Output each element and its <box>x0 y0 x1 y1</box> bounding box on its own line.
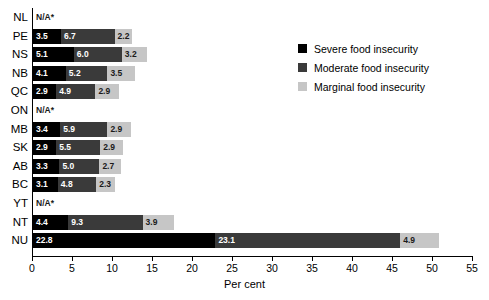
x-axis-title: Per cent <box>0 278 489 290</box>
bar-segment-moderate[interactable]: 6.0 <box>74 47 122 62</box>
legend-label: Moderate food insecurity <box>314 62 429 74</box>
legend-item-marginal[interactable]: Marginal food insecurity <box>298 78 429 95</box>
bar-segment-severe[interactable]: 2.9 <box>33 140 56 155</box>
x-axis-tick <box>32 256 33 261</box>
stacked-bar[interactable]: 2.94.92.9 <box>33 84 119 99</box>
bar-segment-severe[interactable]: 3.5 <box>33 29 61 44</box>
bar-value-label: 9.3 <box>71 215 83 230</box>
x-axis-tick <box>312 256 313 261</box>
row-label-nt: NT <box>0 215 28 230</box>
bar-segment-marginal[interactable]: 4.9 <box>400 233 439 248</box>
row-label-nb: NB <box>0 66 28 81</box>
bar-value-label: 6.0 <box>77 47 89 62</box>
row-label-qc: QC <box>0 84 28 99</box>
bar-segment-marginal[interactable]: 3.9 <box>143 215 174 230</box>
row-label-nu: NU <box>0 233 28 248</box>
bar-segment-marginal[interactable]: 2.9 <box>95 84 118 99</box>
row-label-ab: AB <box>0 159 28 174</box>
stacked-bar[interactable]: 4.49.33.9 <box>33 215 174 230</box>
bar-value-label: 5.9 <box>63 122 75 137</box>
bar-value-label: 2.9 <box>103 140 115 155</box>
bar-value-label: 4.4 <box>36 215 48 230</box>
row-label-mb: MB <box>0 122 28 137</box>
legend-swatch-icon <box>298 44 307 53</box>
bar-segment-severe[interactable]: 5.1 <box>33 47 74 62</box>
stacked-bar[interactable]: 5.16.03.2 <box>33 47 147 62</box>
legend-label: Marginal food insecurity <box>314 81 425 93</box>
stacked-bar[interactable]: 2.95.52.9 <box>33 140 123 155</box>
x-axis-tick-label: 10 <box>106 262 118 274</box>
stacked-bar[interactable]: 4.15.23.5 <box>33 66 135 81</box>
x-axis-line <box>32 256 473 257</box>
bar-segment-marginal[interactable]: 3.2 <box>122 47 148 62</box>
bar-value-label: 2.2 <box>118 29 130 44</box>
bar-segment-severe[interactable]: 22.8 <box>33 233 215 248</box>
bar-value-label: 3.3 <box>36 159 48 174</box>
bar-segment-marginal[interactable]: 2.9 <box>100 140 123 155</box>
stacked-bar[interactable]: 22.823.14.9 <box>33 233 439 248</box>
bar-value-label: 2.9 <box>36 84 48 99</box>
bar-value-label: 3.1 <box>36 177 48 192</box>
row-label-bc: BC <box>0 177 28 192</box>
stacked-bar[interactable]: 3.56.72.2 <box>33 29 132 44</box>
bar-value-label: 3.9 <box>146 215 158 230</box>
chart-row: YTN/A* <box>0 196 489 211</box>
x-axis-tick-label: 45 <box>386 262 398 274</box>
bar-value-label: 3.2 <box>125 47 137 62</box>
na-label: N/A* <box>36 196 54 211</box>
row-label-on: ON <box>0 103 28 118</box>
x-axis-tick <box>72 256 73 261</box>
bar-value-label: 4.1 <box>36 66 48 81</box>
x-axis-tick <box>192 256 193 261</box>
bar-segment-moderate[interactable]: 5.9 <box>60 122 107 137</box>
bar-value-label: 5.1 <box>36 47 48 62</box>
legend: Severe food insecurityModerate food inse… <box>298 40 429 97</box>
chart-row: BC3.14.82.3 <box>0 177 489 192</box>
row-label-yt: YT <box>0 196 28 211</box>
stacked-bar[interactable]: 3.45.92.9 <box>33 122 131 137</box>
bar-segment-moderate[interactable]: 6.7 <box>61 29 115 44</box>
bar-segment-marginal[interactable]: 2.7 <box>99 159 121 174</box>
x-axis-tick-label: 20 <box>186 262 198 274</box>
bar-segment-severe[interactable]: 4.1 <box>33 66 66 81</box>
bar-segment-severe[interactable]: 2.9 <box>33 84 56 99</box>
bar-segment-severe[interactable]: 3.1 <box>33 177 58 192</box>
bar-segment-marginal[interactable]: 2.9 <box>107 122 130 137</box>
row-label-sk: SK <box>0 140 28 155</box>
bar-segment-severe[interactable]: 4.4 <box>33 215 68 230</box>
x-axis-tick <box>232 256 233 261</box>
bar-value-label: 2.3 <box>99 177 111 192</box>
chart-row: NU22.823.14.9 <box>0 233 489 248</box>
bar-segment-severe[interactable]: 3.4 <box>33 122 60 137</box>
x-axis-tick-label: 40 <box>346 262 358 274</box>
na-label: N/A* <box>36 103 54 118</box>
stacked-bar[interactable]: 3.14.82.3 <box>33 177 115 192</box>
row-label-pe: PE <box>0 29 28 44</box>
bar-segment-marginal[interactable]: 3.5 <box>107 66 135 81</box>
stacked-bar[interactable]: 3.35.02.7 <box>33 159 121 174</box>
x-axis-tick <box>272 256 273 261</box>
bar-segment-moderate[interactable]: 4.9 <box>56 84 95 99</box>
bar-segment-moderate[interactable]: 23.1 <box>215 233 400 248</box>
legend-item-moderate[interactable]: Moderate food insecurity <box>298 59 429 76</box>
chart-row: NT4.49.33.9 <box>0 215 489 230</box>
bar-segment-moderate[interactable]: 4.8 <box>58 177 96 192</box>
bar-segment-marginal[interactable]: 2.2 <box>115 29 133 44</box>
chart-row: NLN/A* <box>0 10 489 25</box>
bar-segment-severe[interactable]: 3.3 <box>33 159 59 174</box>
bar-segment-moderate[interactable]: 5.0 <box>59 159 99 174</box>
bar-value-label: 3.5 <box>36 29 48 44</box>
bar-segment-moderate[interactable]: 5.5 <box>56 140 100 155</box>
chart-row: AB3.35.02.7 <box>0 159 489 174</box>
bar-value-label: 3.5 <box>110 66 122 81</box>
x-axis-tick-label: 35 <box>306 262 318 274</box>
bar-value-label: 22.8 <box>36 233 53 248</box>
bar-segment-marginal[interactable]: 2.3 <box>96 177 114 192</box>
bar-value-label: 2.9 <box>36 140 48 155</box>
chart-row: MB3.45.92.9 <box>0 122 489 137</box>
x-axis-tick-label: 0 <box>29 262 35 274</box>
legend-item-severe[interactable]: Severe food insecurity <box>298 40 429 57</box>
row-label-nl: NL <box>0 10 28 25</box>
bar-segment-moderate[interactable]: 5.2 <box>66 66 108 81</box>
bar-segment-moderate[interactable]: 9.3 <box>68 215 142 230</box>
